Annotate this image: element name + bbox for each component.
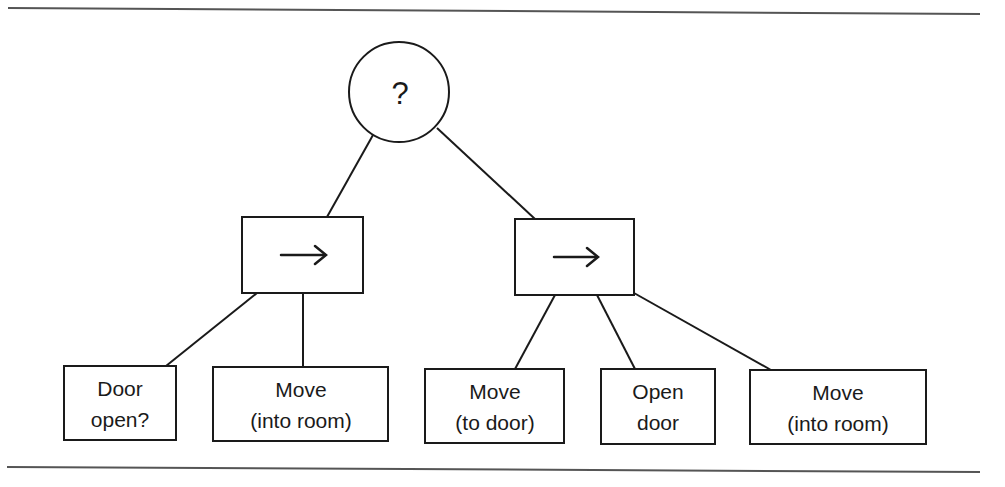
top-rule bbox=[8, 8, 980, 14]
edge-seq-left-to-door-open bbox=[166, 293, 257, 366]
root-selector-node: ? bbox=[349, 42, 449, 142]
leaf-label-line-1: Move bbox=[812, 381, 863, 404]
leaf-move-into-room: Move (into room) bbox=[213, 367, 388, 441]
leaf-move-into-room-2: Move (into room) bbox=[750, 370, 926, 444]
edge-root-to-seq-left bbox=[327, 135, 373, 217]
edge-root-to-seq-right bbox=[437, 128, 535, 219]
edge-seq-right-to-move-into-room-2 bbox=[634, 293, 771, 370]
leaf-label-line-1: Open bbox=[632, 380, 683, 403]
question-mark-icon: ? bbox=[391, 76, 408, 111]
leaf-label-line-2: open? bbox=[91, 408, 149, 431]
leaf-label-line-2: (into room) bbox=[787, 412, 889, 435]
leaf-label-line-1: Move bbox=[469, 380, 520, 403]
leaf-door-open: Door open? bbox=[64, 366, 176, 440]
edge-seq-right-to-move-to-door bbox=[515, 295, 555, 369]
leaf-label-line-2: door bbox=[637, 411, 679, 434]
leaf-open-door: Open door bbox=[601, 369, 715, 444]
leaf-label-line-1: Door bbox=[97, 377, 143, 400]
behavior-tree-diagram: ? Door open? Move (into room) Move (to d… bbox=[0, 0, 1005, 487]
edge-seq-right-to-open-door bbox=[597, 295, 635, 369]
leaf-move-to-door: Move (to door) bbox=[425, 369, 564, 443]
leaf-label-line-2: (into room) bbox=[250, 409, 352, 432]
bottom-rule bbox=[7, 467, 980, 472]
leaf-label-line-1: Move bbox=[275, 378, 326, 401]
sequence-node-right bbox=[515, 219, 634, 295]
sequence-node-left bbox=[242, 217, 363, 293]
leaf-label-line-2: (to door) bbox=[455, 411, 534, 434]
